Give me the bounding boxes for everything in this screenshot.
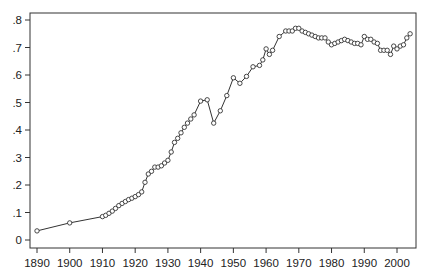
- data-point-marker: [182, 125, 186, 129]
- x-tick-label: 1890: [24, 257, 50, 269]
- data-point-marker: [251, 65, 255, 69]
- data-point-marker: [198, 99, 202, 103]
- y-axis: 0.1.2.3.4.5.6.7.8: [12, 14, 30, 246]
- x-tick-label: 1970: [286, 257, 312, 269]
- data-point-marker: [267, 52, 271, 56]
- data-point-marker: [408, 32, 412, 36]
- data-point-marker: [169, 150, 173, 154]
- data-point-marker: [225, 93, 229, 97]
- data-point-marker: [231, 76, 235, 80]
- data-point-marker: [238, 81, 242, 85]
- data-point-marker: [261, 58, 265, 62]
- data-point-marker: [176, 136, 180, 140]
- y-tick-label: .7: [12, 42, 22, 54]
- x-tick-label: 2000: [384, 257, 410, 269]
- data-point-marker: [270, 48, 274, 52]
- x-tick-label: 1920: [122, 257, 148, 269]
- data-point-marker: [172, 140, 176, 144]
- x-tick-label: 1960: [253, 257, 279, 269]
- y-tick-label: .5: [12, 97, 22, 109]
- data-point-marker: [359, 43, 363, 47]
- data-point-marker: [179, 131, 183, 135]
- x-tick-label: 1980: [319, 257, 345, 269]
- y-tick-label: .4: [12, 124, 22, 136]
- y-tick-label: .6: [12, 69, 22, 81]
- data-point-marker: [264, 47, 268, 51]
- plot-frame: [30, 13, 416, 248]
- data-point-marker: [244, 74, 248, 78]
- y-tick-label: 0: [16, 234, 22, 246]
- data-series-line: [37, 28, 410, 231]
- data-point-marker: [143, 180, 147, 184]
- data-point-marker: [257, 63, 261, 67]
- data-point-marker: [68, 221, 72, 225]
- data-point-marker: [192, 113, 196, 117]
- y-tick-label: .8: [12, 14, 22, 26]
- data-point-marker: [277, 34, 281, 38]
- x-tick-label: 1900: [57, 257, 83, 269]
- data-point-marker: [140, 190, 144, 194]
- data-point-marker: [385, 48, 389, 52]
- data-point-marker: [388, 52, 392, 56]
- data-point-marker: [405, 36, 409, 40]
- x-tick-label: 1930: [155, 257, 181, 269]
- data-point-marker: [149, 169, 153, 173]
- data-point-marker: [218, 109, 222, 113]
- data-point-marker: [189, 117, 193, 121]
- data-point-marker: [323, 36, 327, 40]
- line-chart: 0.1.2.3.4.5.6.7.8 1890190019101920193019…: [0, 0, 428, 280]
- y-tick-label: .3: [12, 152, 22, 164]
- data-point-marker: [185, 121, 189, 125]
- x-tick-label: 1940: [188, 257, 214, 269]
- x-axis: 1890190019101920193019401950196019701980…: [24, 248, 410, 269]
- data-point-marker: [375, 41, 379, 45]
- y-tick-label: .1: [12, 207, 22, 219]
- data-point-marker: [212, 121, 216, 125]
- data-point-marker: [35, 229, 39, 233]
- x-tick-label: 1950: [221, 257, 247, 269]
- x-tick-label: 1990: [351, 257, 377, 269]
- data-point-marker: [401, 43, 405, 47]
- y-tick-label: .2: [12, 179, 22, 191]
- x-tick-label: 1910: [90, 257, 116, 269]
- data-point-marker: [205, 98, 209, 102]
- data-point-marker: [166, 158, 170, 162]
- data-point-markers: [35, 26, 413, 233]
